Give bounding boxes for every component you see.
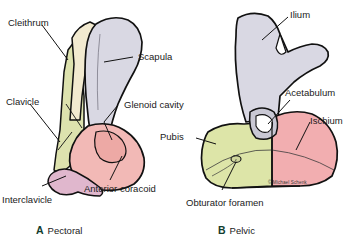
acetabulum-socket <box>256 115 273 133</box>
label-cleithrum: Cleithrum <box>8 18 49 28</box>
label-anterior-coracoid: Anterior coracoid <box>84 184 156 194</box>
label-clavicle: Clavicle <box>6 97 39 107</box>
leader-cleithrum <box>42 25 68 60</box>
pelvic-girdle-drawing <box>202 13 338 188</box>
caption-name-pelvic: Pelvic <box>230 225 255 236</box>
caption-pelvic: BPelvic <box>218 225 255 236</box>
label-interclavicle: Interclavicle <box>2 195 52 205</box>
label-acetabulum: Acetabulum <box>285 88 335 98</box>
leader-clavicle <box>30 104 60 142</box>
caption-letter-a: A <box>36 224 44 236</box>
label-scapula: Scapula <box>138 52 172 62</box>
label-pubis: Pubis <box>160 132 184 142</box>
girdle-illustrations <box>0 0 354 247</box>
label-glenoid-cavity: Glenoid cavity <box>124 100 184 110</box>
label-ilium: Ilium <box>290 10 310 20</box>
caption-letter-b: B <box>218 224 226 236</box>
label-ischium: Ischium <box>310 116 343 126</box>
caption-pectoral: APectoral <box>36 225 82 236</box>
label-obturator-foramen: Obturator foramen <box>186 198 264 208</box>
anatomy-figure: Cleithrum Scapula Clavicle Glenoid cavit… <box>0 0 354 247</box>
artist-credit: © Michael Schenk <box>268 180 307 185</box>
caption-name-pectoral: Pectoral <box>48 225 83 236</box>
ilium-shape <box>235 13 328 122</box>
